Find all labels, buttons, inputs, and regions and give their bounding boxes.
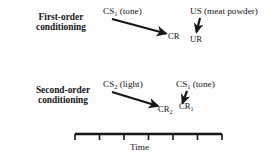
diagram-vector-overlay bbox=[0, 0, 279, 160]
arrow-us-to-ur-first-order bbox=[197, 18, 201, 32]
conditioning-diagram: First-order conditioning CS1 (tone) US (… bbox=[0, 0, 279, 160]
arrow-cs1-to-cr-first-order bbox=[112, 19, 166, 34]
arrow-cs2-to-cr2-second-order bbox=[112, 92, 158, 106]
arrow-cs1-to-cr1-second-order bbox=[183, 91, 188, 103]
time-axis-label: Time bbox=[0, 143, 279, 153]
